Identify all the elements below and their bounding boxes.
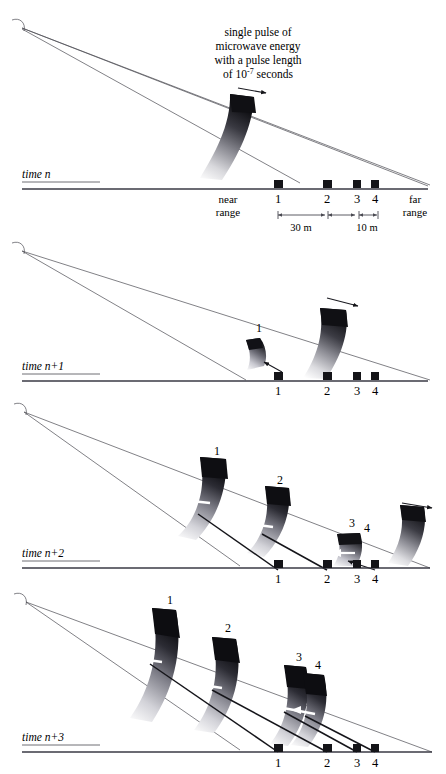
target-label-1-p3: 1 [275, 572, 281, 586]
target-2-box [323, 180, 332, 188]
target-2-box-p4 [323, 744, 332, 752]
caption-line-4: of 10-7 seconds [223, 67, 293, 80]
radar-pulse-diagram: single pulse of microwave energy with a … [0, 0, 446, 774]
echo-label-2-panel-3: 2 [277, 473, 283, 487]
target-label-3: 3 [354, 192, 360, 206]
outgoing-pulse-2 [303, 308, 348, 379]
near-range-line-2: range [216, 206, 241, 218]
beam-inner-edge [22, 29, 300, 183]
range-labels: near range far range [216, 193, 428, 218]
time-label-panel-4: time n+3 [22, 731, 64, 743]
targets-panel-1: 1 2 3 4 [274, 180, 379, 206]
beam-upper-edge-3 [24, 412, 430, 568]
target-label-4: 4 [372, 192, 379, 206]
echo-label-3-panel-4: 3 [296, 650, 302, 664]
pulse-caption: single pulse of microwave energy with a … [214, 26, 301, 80]
echo-label-1-panel-3: 1 [214, 444, 220, 458]
target-label-4-p3: 4 [372, 572, 379, 586]
target-label-4-p4: 4 [372, 756, 379, 770]
time-label-panel-1: time n [22, 168, 51, 180]
panel-time-n-plus-2: 1 2 3 4 time n+2 [14, 403, 432, 586]
far-range-line-1: far [409, 193, 422, 205]
echo-1-panel-2 [241, 338, 266, 370]
target-2-box-p2 [323, 372, 332, 380]
target-label-3-p3: 3 [354, 572, 360, 586]
target-3-box-p2 [353, 372, 361, 380]
target-4-box [371, 180, 379, 188]
target-4-box-p3 [371, 560, 379, 568]
beam-upper-edge-2 [22, 251, 430, 380]
time-label-panel-2: time n+1 [22, 360, 64, 372]
target-label-4-p2: 4 [372, 384, 379, 398]
target-label-2-p3: 2 [324, 572, 330, 586]
caption-line-3: with a pulse length [214, 54, 301, 67]
panel-time-n-plus-3: 1 2 3 4 time n+3 [14, 593, 432, 770]
target-3-box-p3 [353, 560, 361, 568]
time-label-panel-3: time n+2 [22, 547, 64, 559]
dim-label-30m-a: 30 m [290, 222, 311, 233]
target-3-box-p4 [353, 744, 361, 752]
target-label-1: 1 [275, 192, 281, 206]
targets-panel-3: 1 2 3 4 [274, 560, 379, 586]
target-1-box-p2 [274, 372, 283, 380]
caption-exponent: -7 [247, 67, 254, 76]
echo-ray-1-panel-4 [150, 664, 278, 752]
target-label-2-p4: 2 [324, 756, 330, 770]
dim-label-10m: 10 m [356, 222, 377, 233]
target-4-box-p4 [371, 744, 379, 752]
targets-panel-2: 1 2 3 4 [274, 372, 379, 398]
echo-return-ray-1-panel-2 [264, 362, 282, 372]
target-label-1-p4: 1 [275, 756, 281, 770]
caption-line-4-suffix: seconds [254, 68, 294, 80]
panel-time-n: single pulse of microwave energy with a … [12, 19, 430, 233]
echo-2-panel-4 [192, 637, 240, 733]
targets-panel-4: 1 2 3 4 [274, 744, 379, 770]
target-3-box [353, 180, 361, 188]
caption-line-1: single pulse of [224, 26, 291, 39]
echo-ray-2-panel-3 [262, 534, 327, 570]
echo-1-panel-4 [130, 608, 180, 722]
target-4-box-p2 [371, 372, 379, 380]
dimension-bars: 30 m 10 m [278, 211, 378, 233]
echo-label-1-panel-2: 1 [256, 321, 262, 335]
target-1-box [274, 180, 283, 188]
echo-label-2-panel-4: 2 [225, 621, 231, 635]
target-label-3-p2: 3 [354, 384, 360, 398]
echo-label-3-panel-3: 3 [349, 516, 355, 530]
antenna-icon-panel-3 [14, 403, 26, 415]
caption-line-4-prefix: of 10 [223, 68, 247, 80]
far-range-line-2: range [403, 206, 428, 218]
pulse-direction-arrow-2 [327, 298, 358, 306]
echo-label-4-panel-3: 4 [364, 521, 370, 535]
target-label-3-p4: 3 [354, 756, 360, 770]
caption-line-2: microwave energy [215, 40, 300, 53]
target-label-1-p2: 1 [275, 384, 281, 398]
panel-time-n-plus-1: 1 time n+1 1 2 3 4 [12, 242, 430, 398]
antenna-icon-panel-4 [14, 593, 26, 605]
target-1-box-p4 [274, 744, 283, 752]
near-range-line-1: near [219, 193, 238, 205]
target-1-box-p3 [274, 560, 283, 568]
echo-label-1-panel-4: 1 [167, 593, 173, 607]
echo-label-4-panel-4: 4 [315, 658, 321, 672]
target-label-2-p2: 2 [324, 384, 330, 398]
outgoing-pulse-3 [388, 505, 426, 566]
target-label-2: 2 [324, 192, 330, 206]
pulse-direction-arrow [238, 88, 266, 93]
antenna-icon-panel-2 [12, 242, 24, 254]
target-2-box-p3 [323, 560, 332, 568]
